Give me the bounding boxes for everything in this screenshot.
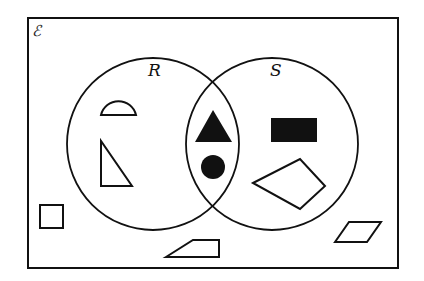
right-triangle-shape	[101, 141, 132, 186]
square-shape	[40, 205, 63, 228]
set-r-label: R	[147, 60, 161, 80]
set-s-circle	[186, 58, 358, 230]
venn-diagram: ℰ R S	[0, 0, 424, 281]
kite-shape	[253, 159, 325, 209]
parallelogram-shape	[335, 222, 381, 242]
set-s-label: S	[270, 60, 282, 80]
filled-circle-shape	[201, 155, 225, 179]
trapezium-shape	[166, 240, 219, 257]
filled-triangle-shape	[195, 110, 232, 142]
set-r-circle	[67, 58, 239, 230]
semicircle-shape	[101, 101, 136, 115]
filled-rectangle-shape	[271, 118, 317, 142]
universal-set-label: ℰ	[32, 22, 43, 40]
